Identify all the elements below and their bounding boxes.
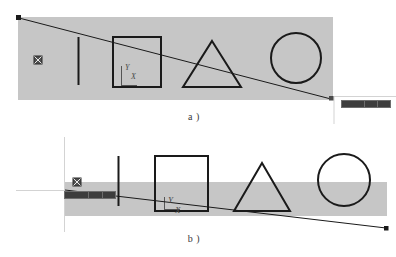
toolbar-cell[interactable] — [89, 192, 102, 198]
target-marker-icon — [33, 55, 43, 65]
panel-caption-a: a ) — [174, 111, 214, 122]
mini-toolbar[interactable] — [341, 100, 391, 108]
sight-line-end-marker-a — [329, 96, 334, 101]
panel-a — [16, 15, 396, 124]
target-marker-icon — [72, 177, 82, 187]
axis-label-x: X — [175, 206, 181, 215]
diagram-canvas — [0, 0, 396, 257]
toolbar-cell[interactable] — [342, 101, 364, 107]
toolbar-cell[interactable] — [365, 101, 377, 107]
toolbar-cell[interactable] — [65, 192, 88, 198]
mini-toolbar[interactable] — [64, 191, 116, 199]
sight-line-end-marker-b — [384, 226, 389, 231]
axis-label-y: Y — [168, 196, 173, 205]
panel-caption-b: b ) — [174, 233, 214, 244]
toolbar-cell[interactable] — [378, 101, 390, 107]
sight-line-start-marker-a — [16, 15, 21, 20]
ground-plane-b — [65, 182, 387, 216]
axis-label-y: Y — [125, 64, 129, 72]
axis-label-x: X — [131, 73, 136, 81]
figure-root: Y X Y X a ) b ) — [0, 0, 396, 257]
toolbar-cell[interactable] — [103, 192, 116, 198]
